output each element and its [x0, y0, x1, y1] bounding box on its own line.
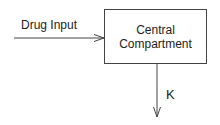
elimination-arrow — [154, 64, 161, 117]
elimination-rate-label: K — [166, 88, 175, 102]
central-label: Central — [136, 23, 175, 37]
compartment-label: Compartment — [119, 37, 192, 51]
drug-input-label: Drug Input — [21, 18, 77, 32]
central-compartment-box: Central Compartment — [104, 9, 207, 64]
input-arrow — [14, 35, 104, 42]
